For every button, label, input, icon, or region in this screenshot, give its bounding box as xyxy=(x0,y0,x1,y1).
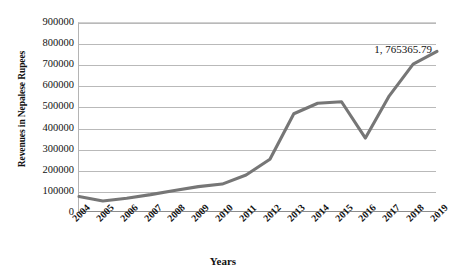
y-tick-label: 700000 xyxy=(14,59,74,69)
y-tick-label: 800000 xyxy=(14,38,74,48)
y-tick-label: 200000 xyxy=(14,165,74,175)
y-tick-label: 0 xyxy=(14,207,74,217)
data-label-last-point: 1, 765365.79 xyxy=(374,43,432,55)
y-tick-label: 100000 xyxy=(14,186,74,196)
y-axis-tick-labels: 9000008000007000006000005000004000003000… xyxy=(14,0,74,276)
y-tick-label: 900000 xyxy=(14,17,74,27)
y-tick-label: 400000 xyxy=(14,123,74,133)
x-axis-tick-labels: 2004200520062007200820092010201120122013… xyxy=(78,212,436,258)
y-tick-label: 300000 xyxy=(14,144,74,154)
plot-area: 1, 765365.79 xyxy=(78,22,436,212)
x-axis-title: Years xyxy=(0,255,446,267)
y-tick-label: 600000 xyxy=(14,80,74,90)
y-tick-label: 500000 xyxy=(14,101,74,111)
